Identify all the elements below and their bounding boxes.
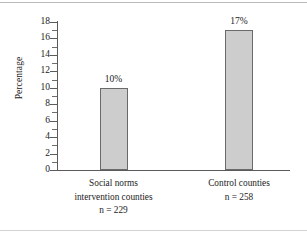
category-label-line: Social norms [54, 177, 174, 191]
y-tick-minor [52, 112, 57, 113]
y-tick-minor [52, 96, 57, 97]
y-tick-minor [52, 129, 57, 130]
bar-value-label: 17% [209, 17, 269, 27]
y-tick-label: 12 [4, 66, 50, 76]
y-axis-tick-labels: 024681012141618 [0, 0, 50, 233]
y-tick-label: 8 [4, 99, 50, 109]
y-tick-major [50, 104, 57, 105]
x-axis-line [57, 170, 290, 171]
y-tick-label: 18 [4, 17, 50, 27]
category-label: Social normsintervention countiesn = 229 [54, 177, 174, 218]
y-tick-major [50, 121, 57, 122]
category-label-line: intervention counties [54, 191, 174, 205]
category-label-line: Control counties [184, 177, 294, 191]
bar [100, 88, 128, 170]
y-tick-minor [52, 47, 57, 48]
bar-value-label: 10% [84, 75, 144, 85]
y-tick-label: 4 [4, 132, 50, 142]
category-label: Control countiesn = 258 [184, 177, 294, 204]
y-tick-major [50, 22, 57, 23]
y-tick-minor [52, 30, 57, 31]
y-tick-label: 10 [4, 83, 50, 93]
y-tick-major [50, 38, 57, 39]
y-tick-major [50, 170, 57, 171]
y-tick-label: 6 [4, 116, 50, 126]
y-tick-label: 2 [4, 149, 50, 159]
y-tick-major [50, 55, 57, 56]
bar [225, 30, 253, 170]
y-tick-major [50, 137, 57, 138]
y-tick-minor [52, 162, 57, 163]
bar-chart-figure: Percentage 024681012141618 10%17% Social… [0, 0, 307, 233]
y-tick-major [50, 71, 57, 72]
y-tick-label: 16 [4, 33, 50, 43]
y-tick-label: 14 [4, 50, 50, 60]
y-tick-major [50, 88, 57, 89]
category-label-line: n = 258 [184, 191, 294, 205]
y-tick-minor [52, 80, 57, 81]
y-tick-major [50, 154, 57, 155]
y-tick-minor [52, 63, 57, 64]
y-axis-line [57, 21, 58, 171]
y-tick-label: 0 [4, 165, 50, 175]
y-tick-minor [52, 145, 57, 146]
category-label-line: n = 229 [54, 204, 174, 218]
